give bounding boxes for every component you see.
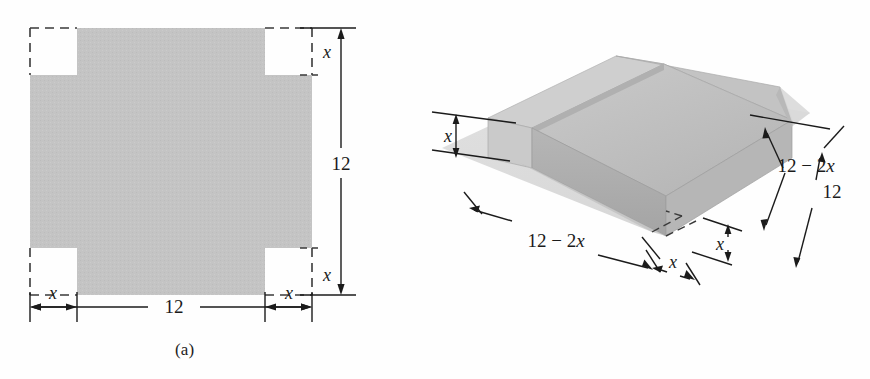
label-right-corner-x: x	[715, 234, 724, 254]
figure-root: 12 12 x x x x (a)	[0, 0, 870, 379]
sheet-shape	[30, 28, 312, 295]
label-height-x: x	[443, 126, 452, 146]
label-front-corner-x: x	[668, 252, 677, 272]
caption-panel-a: (a)	[175, 340, 194, 360]
label-bottom-right-x: x	[284, 283, 293, 303]
label-bottom-12: 12	[165, 296, 184, 317]
label-base-length: 12 − 2x	[527, 230, 585, 251]
panel-b-folded-box: x 12 − 2x	[420, 0, 870, 379]
label-bottom-right-upper-x: x	[322, 265, 331, 285]
label-bottom-left-x: x	[48, 283, 57, 303]
panel-a-flat-sheet: 12 12 x x x x (a)	[0, 0, 420, 379]
panel-a-drawing: 12 12 x x x x	[0, 0, 420, 379]
label-right-12: 12	[332, 153, 351, 174]
label-top-right-x: x	[322, 42, 331, 62]
dimension-bottom-left-x	[30, 303, 77, 310]
panel-b-drawing: x 12 − 2x	[420, 0, 870, 379]
label-base-depth: 12 − 2x	[777, 155, 835, 176]
label-sheet-depth: 12	[823, 181, 842, 202]
dimension-bottom-right-x	[265, 303, 312, 310]
